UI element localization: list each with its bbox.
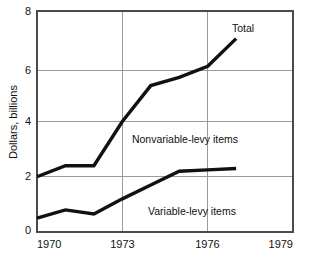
x-tick-1973: 1973 xyxy=(110,238,134,250)
variable-levy-items-label: Variable-levy items xyxy=(148,205,236,217)
y-tick-4: 4 xyxy=(25,115,31,127)
line-chart: 8 6 4 2 0 1970 1973 1976 1979 Dollars, b… xyxy=(0,0,311,256)
nonvariable-levy-items-label: Nonvariable-levy items xyxy=(132,133,238,145)
x-tick-1970: 1970 xyxy=(37,238,61,250)
y-tick-8: 8 xyxy=(25,5,31,17)
total-series-label: Total xyxy=(232,22,254,34)
y-tick-0: 0 xyxy=(25,224,31,236)
y-axis-title: Dollars, billions xyxy=(7,85,19,159)
chart-container: 8 6 4 2 0 1970 1973 1976 1979 Dollars, b… xyxy=(0,0,311,256)
chart-background xyxy=(0,0,311,256)
x-tick-1976: 1976 xyxy=(195,238,219,250)
y-tick-2: 2 xyxy=(25,170,31,182)
y-tick-6: 6 xyxy=(25,64,31,76)
x-tick-1979: 1979 xyxy=(269,238,293,250)
